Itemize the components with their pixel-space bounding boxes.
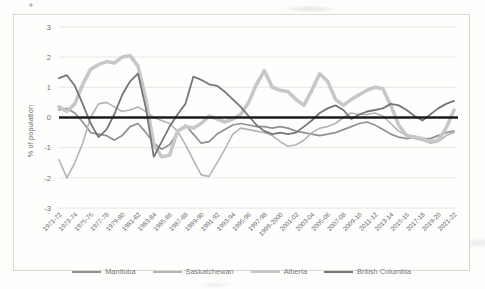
line-chart: 3210-1-2-31971-721973-741975-761977-7819…: [14, 15, 471, 272]
y-tick-label: 0: [47, 113, 51, 122]
legend-label: Alberta: [284, 267, 307, 276]
legend-item-saskatchewan: Saskatchewan: [153, 267, 234, 276]
y-tick-label: 1: [47, 83, 51, 92]
legend-line-swatch: [324, 271, 353, 273]
y-tick-label: -3: [44, 204, 51, 213]
legend-label: Manitoba: [105, 267, 135, 276]
legend-label: Saskatchewan: [186, 267, 234, 276]
legend-item-manitoba: Manitoba: [72, 267, 135, 276]
legend-item-british-columbia: British Columbia: [324, 267, 411, 276]
y-tick-label: 3: [47, 23, 51, 32]
chart-frame: 3210-1-2-31971-721973-741975-761977-7819…: [13, 14, 470, 271]
legend-item-alberta: Alberta: [251, 267, 307, 276]
y-axis-title: % of population: [26, 71, 35, 191]
chart-legend: ManitobaSaskatchewanAlbertaBritish Colum…: [14, 267, 469, 276]
y-tick-label: -2: [44, 174, 51, 183]
y-tick-label: -1: [44, 143, 51, 152]
y-tick-label: 2: [47, 53, 51, 62]
legend-line-swatch: [153, 271, 182, 273]
legend-line-swatch: [72, 271, 101, 273]
legend-label: British Columbia: [357, 267, 411, 276]
legend-line-swatch: [251, 270, 280, 274]
